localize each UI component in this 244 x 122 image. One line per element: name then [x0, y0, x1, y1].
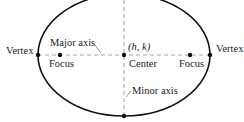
minor-vertex-point: [122, 114, 126, 118]
major-axis-label: Major axis: [50, 38, 95, 49]
minor-axis-pointer: [126, 91, 131, 97]
vertex-left-point: [36, 53, 40, 57]
ellipse-graphic: [0, 0, 244, 122]
center-label: Center: [129, 59, 157, 70]
major-axis-pointer: [95, 45, 101, 53]
focus-left-point: [58, 53, 62, 57]
focus-right-point: [188, 53, 192, 57]
minor-axis-label: Minor axis: [132, 86, 178, 97]
ellipse-diagram: Vertex Major axis Focus (h, k) Center Fo…: [0, 0, 244, 122]
vertex-right-point: [208, 53, 212, 57]
center-coords-label: (h, k): [128, 42, 150, 53]
focus-right-label: Focus: [179, 59, 204, 70]
center-point: [122, 53, 126, 57]
focus-left-label: Focus: [49, 59, 74, 70]
vertex-left-label: Vertex: [6, 46, 33, 57]
vertex-right-label: Vertex: [216, 44, 243, 55]
